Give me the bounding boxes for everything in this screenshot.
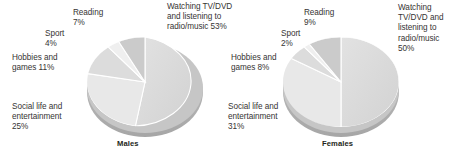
caption-males: Males <box>117 139 139 148</box>
label-females-hobbies: Hobbies and games 8% <box>231 53 276 73</box>
label-males-social: Social life and entertainment 25% <box>12 102 62 133</box>
pie-slices-females <box>283 37 399 127</box>
pie-top-surface-males <box>87 37 203 127</box>
figure-canvas: Reading 7% Sport 4% Hobbies and games 11… <box>0 0 461 158</box>
label-females-sport: Sport 2% <box>281 29 300 49</box>
label-males-sport: Sport 4% <box>45 29 64 49</box>
pie-chart-females <box>283 37 399 137</box>
label-females-social: Social life and entertainment 31% <box>228 102 278 133</box>
pie-top-surface-females <box>283 37 399 127</box>
slice-social-males <box>87 74 145 126</box>
pie-slices-males <box>87 37 203 127</box>
pie-chart-males <box>87 37 203 137</box>
label-males-hobbies: Hobbies and games 11% <box>12 53 57 73</box>
caption-females: Females <box>322 139 353 148</box>
label-females-reading: Reading 9% <box>304 8 334 28</box>
label-males-reading: Reading 7% <box>73 8 103 28</box>
label-males-watching: Watching TV/DVD and listening to radio/m… <box>167 2 232 33</box>
label-females-watching: Watching TV/DVD and listening to radio/m… <box>398 3 443 54</box>
